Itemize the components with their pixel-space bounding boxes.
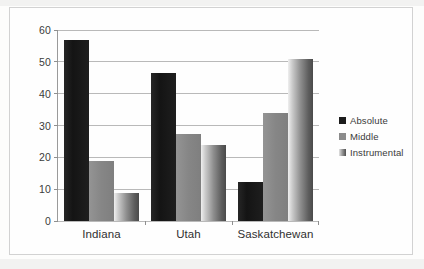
bar-group-saskatchewan: Saskatchewan — [232, 30, 319, 221]
y-axis-tick-label-0: 0 — [45, 215, 51, 227]
bar-indiana-absolute[interactable] — [64, 40, 89, 221]
scanned-page-background: 0102030405060IndianaUtahSaskatchewan Abs… — [0, 0, 424, 269]
legend-item-absolute[interactable]: Absolute — [339, 112, 421, 128]
legend-item-middle[interactable]: Middle — [339, 128, 421, 144]
y-axis-tick-label-20: 20 — [39, 151, 51, 163]
legend-label-absolute: Absolute — [350, 115, 388, 126]
scan-smudge-top — [0, 0, 424, 6]
legend-label-instrumental: Instrumental — [350, 147, 403, 158]
x-axis-label-utah: Utah — [176, 228, 201, 240]
legend-swatch-absolute — [339, 117, 346, 124]
x-axis-label-indiana: Indiana — [82, 228, 120, 240]
bar-group-indiana: Indiana — [58, 30, 145, 221]
bar-utah-middle[interactable] — [176, 134, 201, 221]
legend-label-middle: Middle — [350, 131, 379, 142]
x-axis-label-saskatchewan: Saskatchewan — [238, 228, 314, 240]
bar-group-utah: Utah — [145, 30, 232, 221]
bar-saskatchewan-middle[interactable] — [263, 113, 288, 221]
bar-saskatchewan-absolute[interactable] — [238, 182, 263, 221]
bar-indiana-instrumental[interactable] — [114, 193, 139, 221]
bar-utah-absolute[interactable] — [151, 73, 176, 221]
bar-indiana-middle[interactable] — [89, 161, 114, 221]
x-axis-tick-1 — [145, 221, 146, 225]
legend-swatch-instrumental — [339, 149, 346, 156]
bar-utah-instrumental[interactable] — [201, 145, 226, 221]
scan-smudge-bottom — [0, 259, 424, 269]
y-axis-tick-label-60: 60 — [39, 24, 51, 36]
legend-item-instrumental[interactable]: Instrumental — [339, 144, 421, 160]
x-axis-tick-end — [318, 221, 319, 225]
chart-legend: AbsoluteMiddleInstrumental — [339, 112, 421, 160]
x-axis-tick-2 — [232, 221, 233, 225]
plot-area: 0102030405060IndianaUtahSaskatchewan — [57, 30, 319, 222]
chart-figure-frame: 0102030405060IndianaUtahSaskatchewan Abs… — [9, 7, 413, 255]
legend-swatch-middle — [339, 133, 346, 140]
y-axis-tick-label-50: 50 — [39, 56, 51, 68]
y-axis-tick-label-10: 10 — [39, 183, 51, 195]
bar-saskatchewan-instrumental[interactable] — [288, 59, 313, 221]
y-axis-tick-label-30: 30 — [39, 120, 51, 132]
y-axis-tick-label-40: 40 — [39, 88, 51, 100]
